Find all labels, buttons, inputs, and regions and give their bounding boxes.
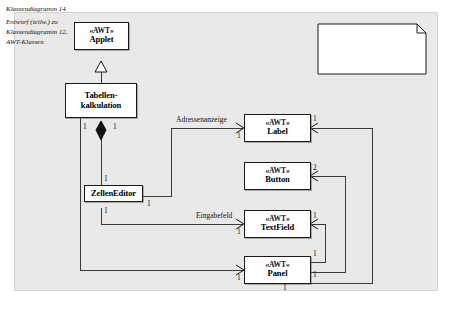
- multiplicity-ze-top: 1: [104, 174, 108, 183]
- multiplicity-tk-left: 1: [83, 122, 87, 131]
- multiplicity-textfield-right: 1: [313, 211, 317, 220]
- diagram-page: «AWT» Applet Tabellen- kalkulation Zelle…: [0, 0, 452, 322]
- class-name-zelleneditor: ZellenEditor: [91, 189, 136, 198]
- class-box-textfield[interactable]: «AWT» TextField: [244, 210, 311, 238]
- multiplicity-panel-right-top: 1: [313, 249, 317, 258]
- role-label-adressenanzeige: Adressenanzeige: [176, 115, 227, 124]
- note-line-3: Klassendiagramm 12,: [6, 28, 102, 38]
- note-text-block: Klassendiagramm 14 Entwurf (teilw.) zu K…: [6, 5, 102, 48]
- multiplicity-panel-right-bot: 1: [283, 283, 287, 292]
- note-line-4: AWT-Klassen: [6, 38, 102, 48]
- note-line-2: Entwurf (teilw.) zu: [6, 18, 102, 28]
- class-box-label[interactable]: «AWT» Label: [244, 114, 311, 142]
- class-box-tabellenkalkulation[interactable]: Tabellen- kalkulation: [65, 83, 137, 118]
- class-name-button: Button: [265, 175, 289, 184]
- multiplicity-textfield-in: 1: [237, 227, 241, 236]
- role-label-eingabefeld: Eingabefeld: [196, 211, 232, 220]
- note-line-1: Klassendiagramm 14: [6, 5, 102, 15]
- multiplicity-panel-right-mid: 1: [313, 270, 317, 279]
- class-box-zelleneditor[interactable]: ZellenEditor: [84, 185, 143, 202]
- multiplicity-ze-bottom: 1: [104, 206, 108, 215]
- multiplicity-panel-in: 1: [237, 273, 241, 282]
- class-name-tabellenkalkulation-line2: kalkulation: [81, 101, 121, 111]
- class-name-label: Label: [267, 127, 287, 136]
- class-name-textfield: TextField: [261, 223, 294, 232]
- multiplicity-label-right: 1: [313, 114, 317, 123]
- diagram-canvas: [14, 12, 438, 291]
- class-name-panel: Panel: [268, 269, 288, 278]
- class-box-panel[interactable]: «AWT» Panel: [244, 256, 311, 284]
- multiplicity-tk-right: 1: [113, 122, 117, 131]
- multiplicity-button-right: 2: [313, 163, 317, 172]
- class-box-button[interactable]: «AWT» Button: [244, 162, 311, 190]
- multiplicity-label-in: 1: [237, 131, 241, 140]
- multiplicity-ze-right: 1: [147, 199, 151, 208]
